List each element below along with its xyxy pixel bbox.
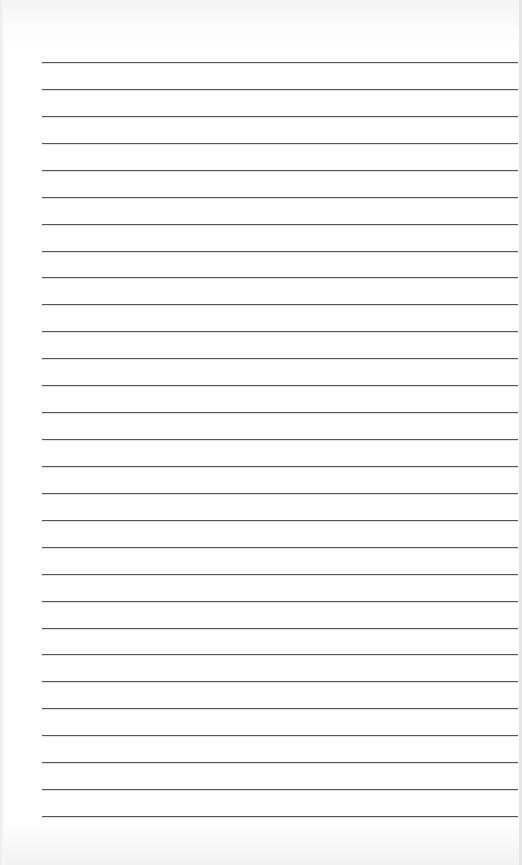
ruled-line (42, 708, 518, 709)
ruled-line (42, 116, 518, 117)
ruled-line (42, 601, 518, 602)
ruled-line (42, 466, 518, 467)
ruled-line (42, 385, 518, 386)
ruled-lines (0, 0, 522, 865)
ruled-line (42, 89, 518, 90)
ruled-line (42, 816, 518, 817)
lined-paper-page (0, 0, 522, 865)
ruled-line (42, 224, 518, 225)
ruled-line (42, 331, 518, 332)
ruled-line (42, 654, 518, 655)
ruled-line (42, 789, 518, 790)
ruled-line (42, 143, 518, 144)
ruled-line (42, 358, 518, 359)
ruled-line (42, 412, 518, 413)
ruled-line (42, 547, 518, 548)
ruled-line (42, 520, 518, 521)
ruled-line (42, 197, 518, 198)
ruled-line (42, 681, 518, 682)
ruled-line (42, 439, 518, 440)
ruled-line (42, 304, 518, 305)
ruled-line (42, 735, 518, 736)
ruled-line (42, 62, 518, 63)
ruled-line (42, 170, 518, 171)
ruled-line (42, 574, 518, 575)
ruled-line (42, 251, 518, 252)
ruled-line (42, 628, 518, 629)
ruled-line (42, 277, 518, 278)
ruled-line (42, 762, 518, 763)
ruled-line (42, 493, 518, 494)
